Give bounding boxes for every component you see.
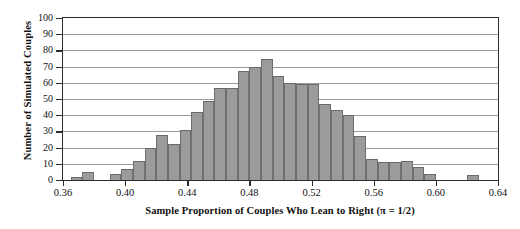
y-axis-tick-label: 90 [23, 29, 53, 39]
x-axis-tick-label: 0.56 [352, 188, 396, 199]
histogram-bar [389, 162, 401, 180]
y-axis-tick [56, 18, 63, 19]
histogram-figure: Number of Simulated Couples 010203040506… [0, 0, 520, 229]
y-axis-tick [56, 180, 63, 181]
y-axis-tick-label: 100 [23, 13, 53, 23]
histogram-bar [319, 104, 331, 180]
y-axis-tick [56, 50, 63, 51]
histogram-bar [308, 84, 320, 180]
histogram-bar [214, 88, 226, 180]
histogram-bar [238, 71, 250, 180]
x-axis-tick-label: 0.52 [290, 188, 334, 199]
histogram-bar [261, 59, 273, 181]
histogram-bar [71, 177, 83, 180]
x-axis-tick-label: 0.64 [476, 188, 520, 199]
y-axis-tick-label: 50 [23, 94, 53, 104]
histogram-bar [401, 161, 413, 180]
histogram-bar [296, 84, 308, 180]
histogram-bar [331, 110, 343, 180]
y-axis-tick [56, 164, 63, 165]
y-axis-tick-label: 0 [23, 175, 53, 185]
x-axis-tick [312, 180, 313, 186]
y-axis-tick [56, 115, 63, 116]
x-axis-tick [125, 180, 126, 186]
histogram-bar [249, 67, 261, 180]
y-axis-tick [56, 34, 63, 35]
y-axis-tick-label: 10 [23, 159, 53, 169]
x-axis-tick-label: 0.44 [165, 188, 209, 199]
histogram-bar [121, 169, 133, 180]
histogram-bar [226, 88, 238, 180]
x-axis-tick-label: 0.48 [227, 188, 271, 199]
histogram-bar [145, 148, 157, 180]
histogram-bar [110, 174, 122, 180]
y-axis-tick [56, 148, 63, 149]
y-axis-tick-label: 60 [23, 78, 53, 88]
y-axis-tick-label: 70 [23, 62, 53, 72]
histogram-bar [424, 174, 436, 180]
plot-area: 0102030405060708090100 0.360.400.440.480… [62, 17, 499, 181]
y-axis-tick-label: 80 [23, 45, 53, 55]
histogram-bar [168, 144, 180, 180]
histogram-bar [354, 136, 366, 180]
histogram-bars [63, 18, 498, 180]
x-axis-tick [374, 180, 375, 186]
histogram-bar [366, 159, 378, 180]
histogram-bar [273, 76, 285, 180]
y-axis-tick [56, 67, 63, 68]
histogram-bar [203, 101, 215, 180]
histogram-bar [191, 112, 203, 180]
y-axis-tick-label: 40 [23, 110, 53, 120]
y-axis-tick-label: 20 [23, 143, 53, 153]
x-axis-tick [498, 180, 499, 186]
histogram-bar [82, 172, 94, 180]
histogram-bar [284, 83, 296, 180]
histogram-bar [378, 162, 390, 180]
x-axis-tick [63, 180, 64, 186]
x-axis-tick-label: 0.36 [41, 188, 85, 199]
x-axis-title: Sample Proportion of Couples Who Lean to… [62, 205, 498, 216]
histogram-bar [156, 135, 168, 180]
x-axis-tick-label: 0.60 [414, 188, 458, 199]
histogram-bar [133, 161, 145, 180]
y-axis-tick-label: 30 [23, 126, 53, 136]
x-axis-tick [436, 180, 437, 186]
y-axis-tick [56, 83, 63, 84]
x-axis-tick [187, 180, 188, 186]
histogram-bar [180, 130, 192, 180]
y-axis-tick [56, 131, 63, 132]
histogram-bar [413, 167, 425, 180]
histogram-bar [343, 115, 355, 180]
x-axis-tick [249, 180, 250, 186]
histogram-bar [467, 175, 479, 180]
y-axis-tick [56, 99, 63, 100]
y-axis-title: Number of Simulated Couples [22, 1, 33, 181]
x-axis-tick-label: 0.40 [103, 188, 147, 199]
